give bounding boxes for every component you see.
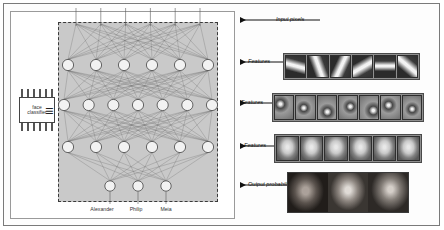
feature-tile	[307, 55, 328, 78]
feature-tile	[359, 95, 379, 120]
feature-strip-edges	[283, 53, 420, 80]
chip-label-line2: classifier	[27, 110, 46, 115]
feature-tile	[374, 55, 395, 78]
output-face-photo	[368, 173, 408, 212]
feature-strip-faces	[274, 134, 422, 163]
output-label-0: Alexander	[82, 206, 122, 212]
feature-tile	[380, 95, 400, 120]
callout-features-3: Features	[244, 142, 266, 148]
callout-input-pixels: Input pixels	[276, 16, 304, 22]
feature-tile	[274, 95, 294, 120]
chip-pins-top	[19, 89, 55, 97]
feature-tile	[373, 136, 396, 161]
callout-features-1: Features	[248, 58, 270, 64]
feature-tile	[317, 95, 337, 120]
output-label-1: Philip	[121, 206, 151, 212]
equals-sign: ≡	[45, 103, 54, 120]
feature-tile	[397, 55, 418, 78]
feature-tile	[330, 55, 351, 78]
feature-tile	[397, 136, 420, 161]
figure-root: face classifier ≡ Alexander Philip Meia	[0, 0, 444, 230]
feature-tile	[324, 136, 347, 161]
feature-tile	[352, 55, 373, 78]
feature-strip-parts	[272, 93, 424, 122]
output-face-photo	[328, 173, 368, 212]
feature-tile	[349, 136, 372, 161]
feature-tile	[276, 136, 299, 161]
output-photo-strip	[287, 172, 409, 213]
output-label-2: Meia	[152, 206, 180, 212]
feature-tile	[402, 95, 422, 120]
feature-tile	[338, 95, 358, 120]
feature-tile	[300, 136, 323, 161]
network-region	[58, 22, 218, 202]
feature-tile	[295, 95, 315, 120]
callout-features-2: Features	[241, 99, 263, 105]
chip-pins-bottom	[19, 123, 55, 131]
output-face-photo	[288, 173, 328, 212]
feature-tile	[285, 55, 306, 78]
